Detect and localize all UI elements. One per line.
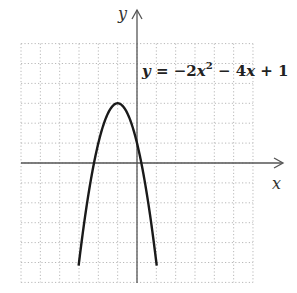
equation-lhs: y <box>142 62 151 80</box>
equation-exponent: 2 <box>206 60 213 71</box>
equation-part: = −2 <box>151 62 197 80</box>
equation-var: x <box>246 62 255 80</box>
x-axis-label: x <box>272 174 281 193</box>
y-axis-label: y <box>118 4 127 23</box>
equation-var: x <box>197 62 206 80</box>
equation-part: + 1 <box>255 62 288 80</box>
parabola-graph <box>0 0 297 293</box>
equation-part: − 4 <box>213 62 246 80</box>
equation-label: y = −2x2 − 4x + 1 <box>142 60 289 80</box>
